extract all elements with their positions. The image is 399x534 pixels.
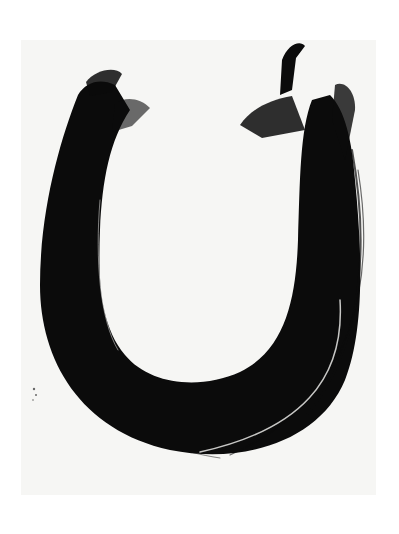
u-stroke <box>40 82 360 455</box>
brush-stroke-artwork <box>0 0 399 534</box>
top-right-splash <box>240 96 305 138</box>
top-left-inner <box>112 99 150 132</box>
ink-specks <box>32 388 37 401</box>
top-right-tip <box>280 43 305 95</box>
